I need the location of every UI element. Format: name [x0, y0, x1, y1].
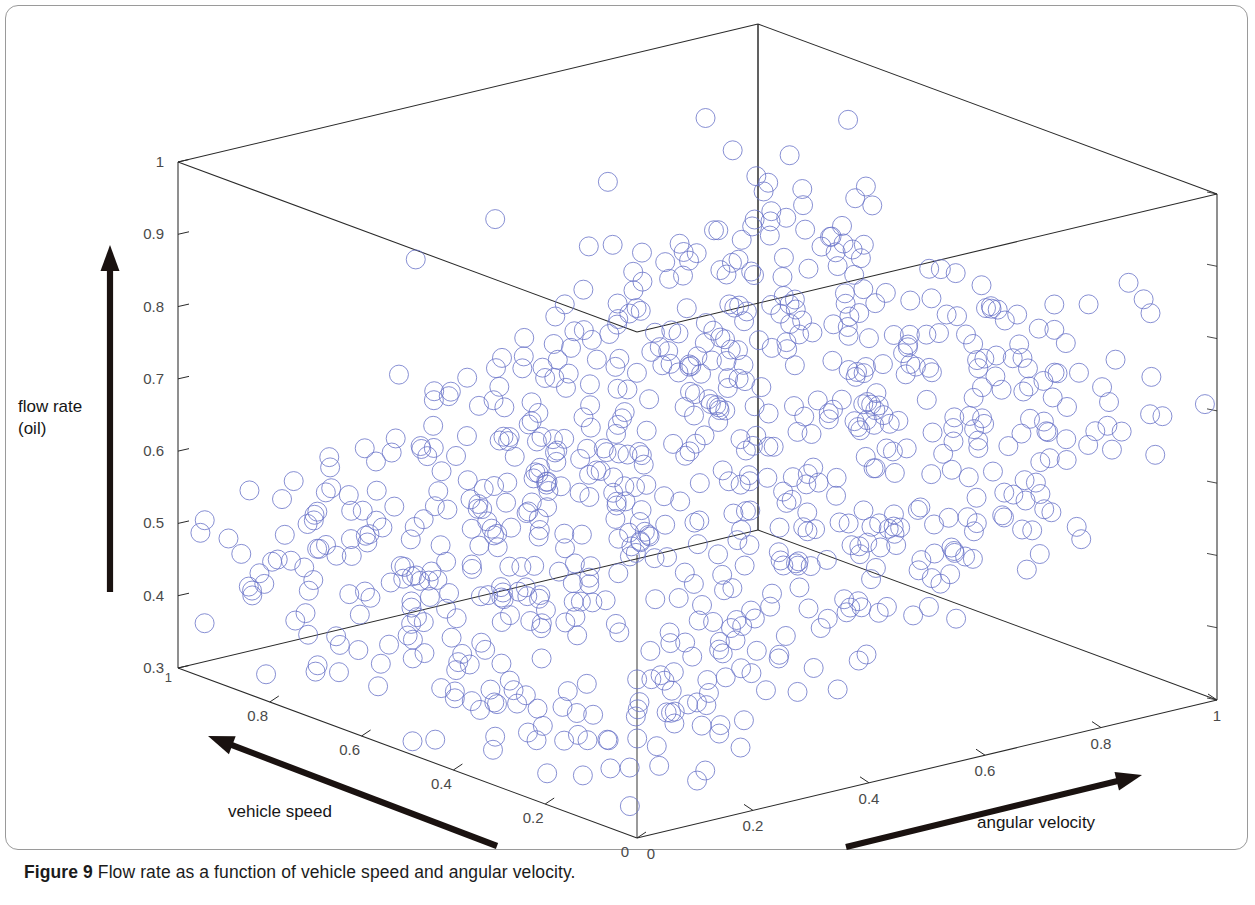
caption-label: Figure 9	[24, 862, 93, 882]
figure-page: 0.30.40.50.60.70.80.9110.80.60.40.2000.2…	[0, 0, 1255, 905]
figure-caption: Figure 9 Flow rate as a function of vehi…	[24, 862, 1224, 883]
x-axis-title: vehicle speed	[228, 801, 332, 823]
caption-sentence: Flow rate as a function of vehicle speed…	[98, 862, 576, 882]
z-axis-title: flow rate (oil)	[18, 396, 118, 441]
y-axis-title: angular velocity	[977, 812, 1095, 834]
figure-frame-border	[5, 5, 1248, 850]
